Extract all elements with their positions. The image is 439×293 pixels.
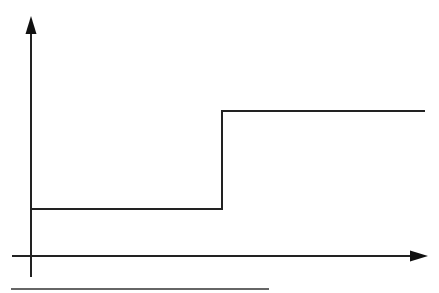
step-diagram: [0, 0, 439, 293]
step-signal: [32, 111, 425, 209]
x-axis-arrowhead: [410, 251, 428, 262]
y-axis-arrowhead: [26, 16, 37, 34]
